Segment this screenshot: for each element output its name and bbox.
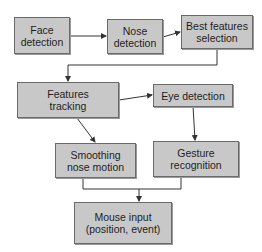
edge-smooth-mouse <box>83 178 181 189</box>
node-mouse-input: Mouse input (position, event) <box>74 202 172 244</box>
edge-track-eye <box>119 95 152 100</box>
edge-eye-gesture <box>193 106 195 140</box>
node-gesture-recognition: Gesture recognition <box>153 141 239 177</box>
node-label: Mouse input (position, event) <box>86 211 161 235</box>
node-label: Best features selection <box>186 20 248 44</box>
node-best-features-selection: Best features selection <box>181 15 253 49</box>
node-label: Features tracking <box>47 88 88 112</box>
node-face-detection: Face detection <box>14 17 70 54</box>
node-eye-detection: Eye detection <box>153 84 233 107</box>
node-label: Eye detection <box>161 90 225 102</box>
edge-track-smooth <box>77 118 95 142</box>
node-features-tracking: Features tracking <box>17 82 119 118</box>
node-label: Face detection <box>21 24 64 48</box>
edge-nose-best <box>163 32 180 37</box>
node-label: Nose detection <box>114 25 157 49</box>
node-nose-detection: Nose detection <box>107 19 163 54</box>
node-smoothing-nose-motion: Smoothing nose motion <box>55 143 136 178</box>
node-label: Smoothing nose motion <box>67 149 124 173</box>
node-label: Gesture recognition <box>170 147 221 171</box>
